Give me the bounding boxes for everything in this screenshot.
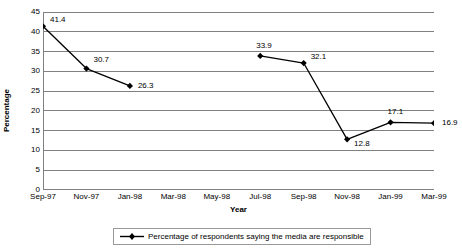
data-point-label: 32.1	[311, 53, 327, 61]
y-tick-label: 15	[16, 127, 40, 135]
plot-area	[43, 12, 434, 190]
x-tick-label: Mar-99	[409, 192, 459, 202]
y-tick-label: 35	[16, 48, 40, 56]
data-point-label: 30.7	[93, 56, 109, 64]
y-tick-label: 20	[16, 107, 40, 115]
data-point-label: 12.8	[354, 140, 370, 148]
data-point-label: 26.3	[138, 82, 154, 90]
data-point-label: 16.9	[442, 119, 458, 127]
data-point-label: 17.1	[388, 108, 404, 116]
y-tick-label: 45	[16, 8, 40, 16]
data-point-label: 41.4	[50, 16, 66, 24]
x-axis-title: Year	[43, 205, 434, 214]
legend-marker-icon	[120, 232, 144, 241]
tick-marks	[43, 12, 434, 190]
y-tick-label: 40	[16, 28, 40, 36]
y-axis-title: Percentage	[0, 55, 14, 165]
y-tick-label: 25	[16, 87, 40, 95]
legend: Percentage of respondents saying the med…	[113, 228, 371, 245]
y-axis-tick-labels: 051015202530354045	[14, 0, 40, 252]
series-markers	[43, 23, 434, 142]
series-line	[43, 26, 434, 139]
legend-item-label: Percentage of respondents saying the med…	[148, 232, 364, 241]
line-chart: Percentage 051015202530354045 41.430.726…	[0, 0, 462, 252]
axis-lines	[43, 12, 434, 190]
y-tick-label: 30	[16, 67, 40, 75]
y-tick-label: 10	[16, 146, 40, 154]
plot-canvas	[43, 12, 434, 190]
y-tick-label: 5	[16, 166, 40, 174]
gridlines	[43, 12, 434, 170]
data-point-label: 33.9	[256, 42, 272, 50]
x-axis-tick-labels: Sep-97Nov-97Jan-98Mar-98May-98Jul-98Sep-…	[43, 192, 434, 206]
y-axis-title-label: Percentage	[3, 88, 12, 131]
x-axis-title-label: Year	[230, 205, 247, 214]
